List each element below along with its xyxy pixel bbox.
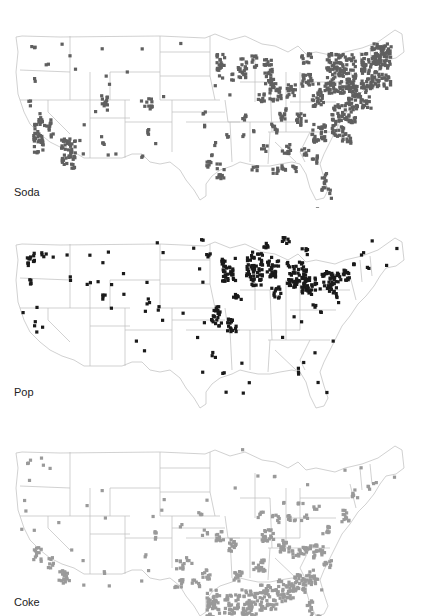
location-dot xyxy=(212,606,215,609)
location-dot xyxy=(246,265,249,268)
location-dot xyxy=(314,582,317,585)
location-dot xyxy=(340,80,343,83)
location-dot xyxy=(42,464,45,467)
location-dot xyxy=(364,91,367,94)
location-dot xyxy=(314,278,317,281)
location-dot xyxy=(369,84,372,87)
location-dot xyxy=(356,496,359,499)
location-dot xyxy=(307,54,310,57)
location-dot xyxy=(328,192,331,195)
location-dot xyxy=(41,148,44,151)
location-dot xyxy=(34,320,37,323)
location-dot xyxy=(206,592,209,595)
location-dot xyxy=(241,611,244,614)
location-dot xyxy=(330,113,333,116)
location-dot xyxy=(231,319,234,322)
location-dot xyxy=(332,107,335,110)
location-dot xyxy=(288,143,291,146)
location-dot xyxy=(293,94,296,97)
location-dot xyxy=(261,274,264,277)
location-dot xyxy=(292,584,295,587)
location-dot xyxy=(317,139,320,142)
location-dot xyxy=(29,104,32,107)
location-dot xyxy=(337,90,340,93)
location-dot xyxy=(20,528,23,531)
location-dot xyxy=(162,251,165,254)
location-dot xyxy=(43,124,46,127)
location-dot xyxy=(38,120,41,123)
location-dot xyxy=(241,448,244,451)
location-dot xyxy=(283,152,286,155)
location-dot xyxy=(66,253,69,256)
location-dot xyxy=(175,567,178,570)
location-dot xyxy=(250,607,253,610)
location-dot xyxy=(276,128,279,131)
location-dot xyxy=(299,124,302,127)
location-dot xyxy=(228,93,231,96)
location-dot xyxy=(49,566,52,569)
location-dot xyxy=(100,135,103,138)
location-dot xyxy=(304,285,307,288)
location-dot xyxy=(157,305,160,308)
location-dot xyxy=(308,570,311,573)
location-dot xyxy=(226,329,229,332)
location-dot xyxy=(33,145,36,148)
location-dot xyxy=(299,120,302,123)
location-dot xyxy=(269,273,272,276)
location-dot xyxy=(258,279,261,282)
location-dot xyxy=(341,85,344,88)
location-dot xyxy=(380,62,383,65)
location-dot xyxy=(308,279,311,282)
location-dot xyxy=(222,538,225,541)
location-dot xyxy=(271,514,274,517)
location-dot xyxy=(354,60,357,63)
location-dot xyxy=(263,589,266,592)
location-dot xyxy=(227,318,230,321)
location-dot xyxy=(141,47,144,50)
location-dot xyxy=(287,93,290,96)
location-dot xyxy=(69,153,72,156)
location-dot xyxy=(319,99,322,102)
location-dot xyxy=(256,474,259,477)
location-dot xyxy=(28,479,31,482)
location-dot xyxy=(343,67,346,70)
location-dot xyxy=(305,154,308,157)
location-dot xyxy=(347,272,350,275)
location-dot xyxy=(358,92,361,95)
location-dot xyxy=(368,488,371,491)
location-dot xyxy=(390,45,393,48)
location-dot xyxy=(216,176,219,179)
location-dot xyxy=(341,509,344,512)
location-dot xyxy=(203,125,206,128)
location-dot xyxy=(312,123,315,126)
location-dot xyxy=(302,361,305,364)
location-dot xyxy=(154,142,157,145)
location-dot xyxy=(345,279,348,282)
location-dot xyxy=(306,253,309,256)
location-dot xyxy=(274,264,277,267)
location-dot xyxy=(331,129,334,132)
location-dot xyxy=(282,541,285,544)
location-dot xyxy=(244,76,247,79)
location-dot xyxy=(266,244,269,247)
location-dot xyxy=(68,140,71,143)
location-dot xyxy=(268,537,271,540)
location-dot xyxy=(296,573,299,576)
location-dot xyxy=(206,166,209,169)
location-dot xyxy=(259,263,262,266)
location-dot xyxy=(69,279,72,282)
location-dot xyxy=(150,100,153,103)
location-dot xyxy=(313,141,316,144)
location-dot xyxy=(362,251,365,254)
location-dot xyxy=(242,73,245,76)
location-dot xyxy=(291,549,294,552)
location-dot xyxy=(299,552,302,555)
location-dot xyxy=(292,165,295,168)
location-dot xyxy=(329,68,332,71)
location-dot xyxy=(214,356,217,359)
location-dot xyxy=(274,599,277,602)
location-dot xyxy=(40,251,43,254)
location-dot xyxy=(352,108,355,111)
location-dot xyxy=(52,132,55,135)
location-dot xyxy=(229,604,232,607)
